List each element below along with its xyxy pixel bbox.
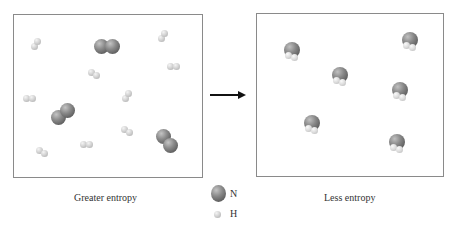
arrow-shaft: [210, 94, 240, 96]
legend-label-n: N: [230, 188, 237, 199]
hydrogen-atom: [291, 54, 298, 61]
hydrogen-legend-icon: [214, 211, 221, 218]
hydrogen-atom: [409, 44, 416, 51]
h2-atom: [86, 141, 93, 148]
right-panel-caption: Less entropy: [324, 192, 375, 203]
legend-label-h: H: [230, 208, 237, 219]
h2-atom: [29, 95, 36, 102]
left-panel-caption: Greater entropy: [74, 192, 137, 203]
nitrogen-legend-icon: [211, 185, 226, 202]
hydrogen-atom: [311, 127, 318, 134]
h2-atom: [173, 63, 180, 70]
hydrogen-atom: [339, 79, 346, 86]
n2-atom: [105, 39, 120, 54]
n2-atom: [60, 103, 75, 118]
n2-atom: [163, 138, 178, 153]
arrow-head-icon: [238, 91, 246, 99]
hydrogen-atom: [396, 146, 403, 153]
hydrogen-atom: [399, 94, 406, 101]
